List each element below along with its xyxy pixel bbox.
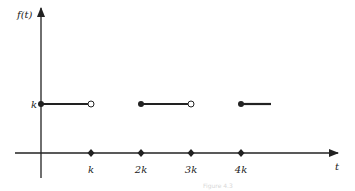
x-tick-label: 4k <box>234 164 247 175</box>
y-tick-label: k <box>31 99 37 110</box>
x-tick-label: 2k <box>134 164 147 175</box>
open-endpoint <box>88 101 94 107</box>
x-tick-mark <box>88 149 95 157</box>
x-tick-mark <box>138 149 145 157</box>
y-axis-label: f(t) <box>16 9 33 20</box>
x-tick-label: 3k <box>185 164 197 175</box>
x-tick-label: k <box>88 164 94 175</box>
open-endpoint <box>188 101 194 107</box>
x-tick-mark <box>188 149 195 157</box>
x-axis-label: t <box>335 161 340 172</box>
closed-endpoint <box>138 101 144 107</box>
piecewise-function-chart: f(t) t k2k3k4kk Figure 4.3 <box>0 0 355 191</box>
figure-caption: Figure 4.3 <box>203 182 233 190</box>
x-tick-mark <box>238 149 245 157</box>
closed-endpoint <box>38 101 44 107</box>
closed-endpoint <box>238 101 244 107</box>
